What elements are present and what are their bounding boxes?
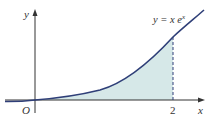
x-axis-arrow-icon xyxy=(198,98,205,103)
y-axis-label: y xyxy=(23,8,29,20)
shaded-area xyxy=(35,37,173,100)
origin-label: O xyxy=(22,104,30,116)
graph: y x O 2 y = x ex xyxy=(0,0,216,119)
y-axis-arrow-icon xyxy=(33,9,38,16)
x-tick-label-2: 2 xyxy=(170,104,176,116)
curve-label: y = x ex xyxy=(152,13,186,25)
curve-label-main: y = x e xyxy=(152,14,182,25)
curve-label-exponent: x xyxy=(181,13,186,21)
x-axis-label: x xyxy=(197,104,203,116)
